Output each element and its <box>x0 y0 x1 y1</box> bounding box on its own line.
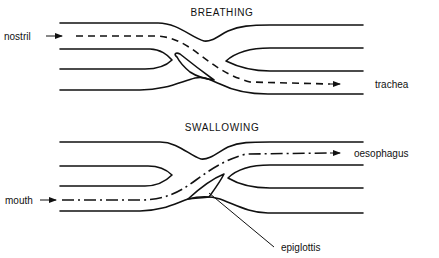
swallow-bottom-wall <box>60 197 363 213</box>
trachea-upper-fork <box>226 48 363 71</box>
oesophagus-label: oesophagus <box>354 148 409 159</box>
breathing-panel: BREATHING nostril trachea <box>4 7 409 94</box>
breathing-airflow-path <box>76 36 330 84</box>
swallowing-title: SWALLOWING <box>185 122 260 133</box>
swallow-trachea-fork <box>228 165 363 188</box>
swallow-nasal-bottom-wall <box>60 166 172 186</box>
breathing-title: BREATHING <box>191 7 254 18</box>
trachea-label: trachea <box>375 79 409 90</box>
mouth-label: mouth <box>5 195 33 206</box>
epiglottis-lowered <box>188 174 224 199</box>
epiglottis-raised <box>175 53 214 80</box>
airway-diagram: BREATHING nostril trachea SWALLOWING <box>0 0 439 258</box>
swallow-nasal-top-wall <box>60 142 363 159</box>
nasal-bottom-wall <box>60 49 172 69</box>
epiglottis-leader-line <box>209 193 274 247</box>
nasal-top-wall <box>60 23 363 41</box>
swallowing-panel: SWALLOWING mouth oesophagus epiglottis <box>5 122 409 253</box>
epiglottis-label: epiglottis <box>281 242 320 253</box>
nostril-label: nostril <box>4 31 31 42</box>
